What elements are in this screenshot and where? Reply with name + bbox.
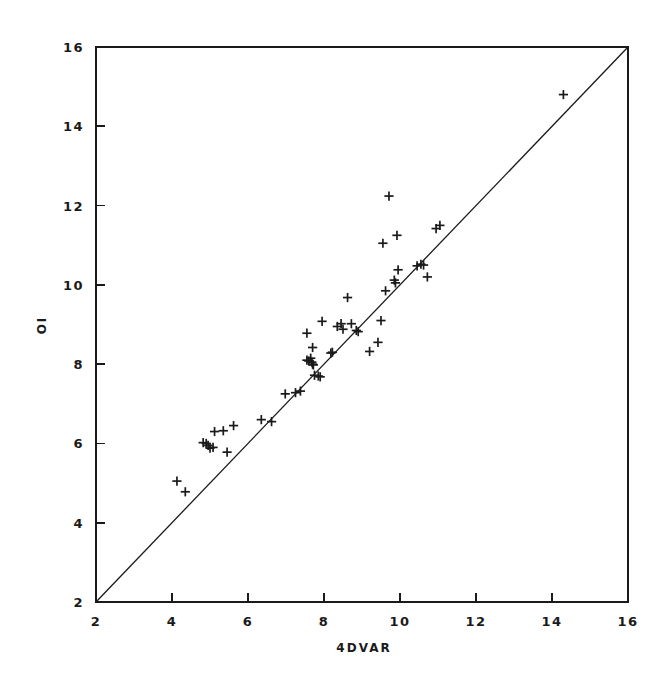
x-tick-label: 14	[541, 614, 562, 629]
x-tick-label: 12	[465, 614, 486, 629]
x-tick-label: 16	[617, 614, 638, 629]
x-tick-label: 10	[389, 614, 410, 629]
figure-background	[0, 0, 668, 673]
x-axis-label: 4DVAR	[336, 641, 391, 655]
y-tick-label: 4	[73, 516, 84, 531]
x-tick-label: 6	[243, 614, 254, 629]
y-tick-label: 10	[63, 278, 84, 293]
x-tick-label: 8	[319, 614, 330, 629]
y-axis-label: OI	[35, 316, 49, 335]
y-tick-label: 16	[63, 40, 84, 55]
scatter-plot-figure: 246810121416 246810121416 4DVAR OI	[0, 0, 668, 673]
y-tick-label: 2	[73, 595, 84, 610]
x-tick-label: 2	[91, 614, 102, 629]
y-tick-label: 8	[73, 357, 84, 372]
x-tick-label: 4	[167, 614, 178, 629]
y-tick-label: 12	[63, 199, 84, 214]
y-tick-label: 14	[63, 119, 84, 134]
y-tick-label: 6	[73, 436, 84, 451]
